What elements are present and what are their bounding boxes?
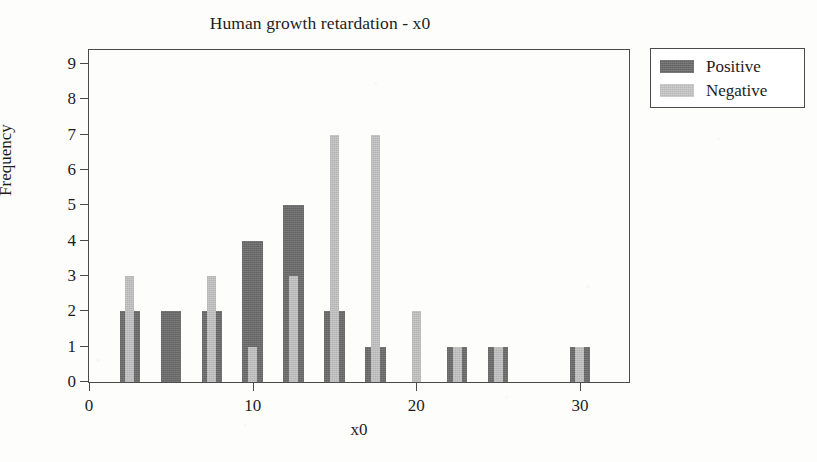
x-axis-tick-label: 0 (85, 396, 94, 416)
legend-item-positive[interactable]: Positive (660, 54, 804, 78)
y-axis-tick-label: 7 (68, 125, 77, 145)
plot-inner (89, 50, 629, 382)
x-axis-tick-label: 20 (408, 396, 425, 416)
y-axis-tick-label: 4 (68, 231, 77, 251)
plot-area: 01234567890102030 (88, 49, 630, 383)
y-axis-tick-label: 3 (68, 266, 77, 286)
x-axis-tick (89, 382, 90, 391)
x-axis-tick (416, 382, 417, 391)
y-axis-tick (80, 240, 89, 241)
bar-negative (575, 347, 584, 382)
y-axis-tick (80, 310, 89, 311)
y-axis-tick-label: 1 (68, 337, 77, 357)
bar-negative (371, 135, 380, 382)
bar-negative (494, 347, 503, 382)
bar-negative (207, 276, 216, 382)
y-axis-label: Frequency (0, 124, 16, 196)
x-axis-tick (580, 382, 581, 391)
chart-figure: Human growth retardation - x0 Frequency … (0, 0, 817, 462)
bar-negative (412, 311, 421, 382)
legend-item-negative[interactable]: Negative (660, 78, 804, 102)
x-axis-tick (253, 382, 254, 391)
bar-negative (248, 347, 257, 382)
bar-negative (330, 135, 339, 382)
bar-negative (125, 276, 134, 382)
bar-negative (453, 347, 462, 382)
y-axis-tick (80, 381, 89, 382)
x-axis-tick-label: 10 (244, 396, 261, 416)
legend-item-label: Negative (706, 82, 767, 99)
y-axis-tick-label: 6 (68, 160, 77, 180)
y-axis-tick-label: 8 (68, 89, 77, 109)
x-axis-tick-label: 30 (571, 396, 588, 416)
y-axis-tick (80, 98, 89, 99)
y-axis-tick-label: 0 (68, 372, 77, 392)
chart-legend: PositiveNegative (650, 48, 805, 108)
legend-swatch-icon (660, 84, 694, 97)
x-axis-label: x0 (88, 420, 630, 440)
y-axis-tick (80, 346, 89, 347)
y-axis-tick (80, 134, 89, 135)
y-axis-tick (80, 275, 89, 276)
y-axis-tick (80, 204, 89, 205)
y-axis-tick (80, 63, 89, 64)
y-axis-tick (80, 169, 89, 170)
y-axis-tick-label: 5 (68, 195, 77, 215)
bar-negative (289, 276, 298, 382)
y-axis-tick-label: 2 (68, 301, 77, 321)
legend-item-label: Positive (706, 58, 761, 75)
chart-title: Human growth retardation - x0 (0, 13, 640, 34)
y-axis-tick-label: 9 (68, 54, 77, 74)
legend-swatch-icon (660, 60, 694, 73)
bar-positive (161, 311, 181, 382)
